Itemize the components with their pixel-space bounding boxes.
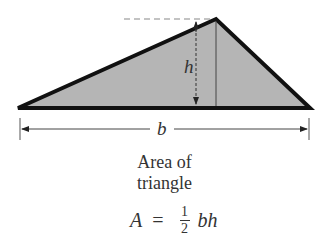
base-label: b [157, 118, 167, 140]
formula-lhs: A [130, 209, 142, 232]
fraction-denominator: 2 [181, 222, 188, 236]
triangle-shape [18, 19, 310, 108]
area-formula: A = 1 2 bh [130, 205, 218, 236]
height-label: h [184, 56, 194, 78]
formula-fraction: 1 2 [180, 205, 190, 236]
caption-line2: triangle [0, 173, 329, 194]
fraction-numerator: 1 [181, 205, 188, 219]
formula-rhs: bh [198, 209, 218, 232]
formula-equals: = [152, 209, 163, 232]
caption-line1: Area of [0, 152, 329, 173]
